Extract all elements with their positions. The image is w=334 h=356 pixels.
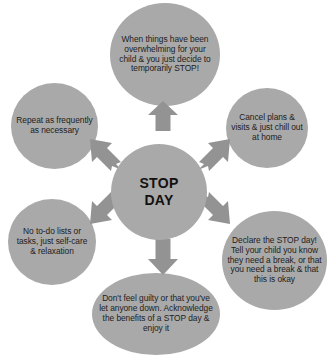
diagram-node-lower-left-label: No to-do lists or tasks, just self-care … — [8, 227, 96, 257]
hub-line-1: STOP — [139, 175, 178, 191]
hub-line-2: DAY — [144, 192, 173, 208]
diagram-node-lower-right: Declare the STOP day! Tell your child yo… — [222, 211, 327, 310]
diagram-hub-label: STOPDAY — [134, 175, 183, 210]
arrow-down-icon — [147, 238, 179, 276]
diagram-node-upper-left: Repeat as frequently as necessary — [11, 83, 98, 169]
diagram-node-top: When things have been overwhelming for y… — [110, 3, 220, 106]
diagram-hub-stop-day: STOPDAY — [111, 144, 207, 240]
diagram-node-lower-right-label: Declare the STOP day! Tell your child yo… — [222, 236, 327, 286]
diagram-node-lower-left: No to-do lists or tasks, just self-care … — [8, 199, 96, 285]
diagram-node-upper-left-label: Repeat as frequently as necessary — [11, 116, 98, 136]
diagram-node-bottom: Don't feel guilty or that you've let any… — [92, 273, 220, 355]
diagram-node-top-label: When things have been overwhelming for y… — [110, 35, 220, 75]
diagram-node-bottom-label: Don't feel guilty or that you've let any… — [92, 294, 220, 334]
stop-day-diagram: When things have been overwhelming for y… — [0, 0, 334, 356]
diagram-node-upper-right: Cancel plans & visits & just chill out a… — [226, 88, 308, 168]
diagram-node-upper-right-label: Cancel plans & visits & just chill out a… — [226, 113, 308, 143]
